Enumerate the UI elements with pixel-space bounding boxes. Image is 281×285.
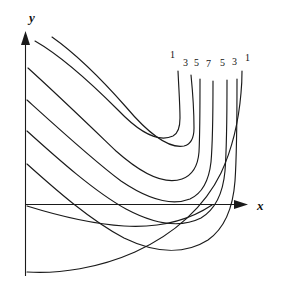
y-axis: y (21, 10, 35, 276)
contour-label-group: 1357531 (170, 49, 250, 69)
x-axis-arrow-icon (234, 200, 248, 209)
contour-curve-group (27, 37, 242, 272)
plot-canvas: y x 1357531 (0, 0, 281, 285)
x-axis: x (25, 198, 264, 213)
contour-level-label: 3 (183, 57, 188, 68)
contour-level-label: 5 (194, 57, 199, 68)
y-axis-arrow-icon (21, 31, 30, 45)
x-axis-label: x (256, 198, 264, 213)
contour-plot-figure: y x 1357531 (0, 0, 281, 285)
y-axis-label: y (27, 10, 35, 25)
contour-level-label: 1 (245, 52, 250, 63)
contour-curve (27, 81, 213, 202)
contour-curve (35, 41, 180, 138)
contour-level-label: 7 (206, 58, 211, 69)
contour-curve (27, 80, 227, 224)
contour-level-label: 1 (170, 49, 175, 60)
contour-level-label: 3 (232, 56, 237, 67)
contour-level-label: 5 (220, 57, 225, 68)
